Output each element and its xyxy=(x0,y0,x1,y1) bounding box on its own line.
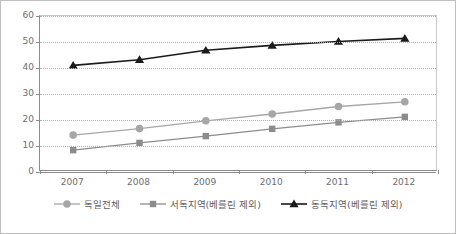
y-axis-tick xyxy=(36,16,40,17)
x-axis-tick xyxy=(239,170,240,174)
x-axis-tick xyxy=(173,170,174,174)
gridline xyxy=(40,94,436,95)
x-axis-label: 2011 xyxy=(326,177,349,187)
circle-marker-icon xyxy=(54,198,80,210)
gridline xyxy=(40,120,436,121)
legend-item[interactable]: 동독지역(베를린 제외) xyxy=(281,197,402,211)
y-axis-label: 20 xyxy=(23,114,34,124)
legend-label: 동독지역(베를린 제외) xyxy=(311,197,402,211)
x-axis-label: 2008 xyxy=(127,177,150,187)
y-axis-label: 30 xyxy=(23,88,34,98)
y-axis-tick xyxy=(36,120,40,121)
x-axis-tick xyxy=(106,170,107,174)
x-axis-tick xyxy=(40,170,41,174)
y-axis-tick xyxy=(36,42,40,43)
data-point xyxy=(203,133,209,139)
y-axis-label: 40 xyxy=(23,62,34,72)
plot-area xyxy=(39,15,437,171)
x-axis-label: 2010 xyxy=(260,177,283,187)
y-axis-label: 10 xyxy=(23,140,34,150)
data-point xyxy=(70,147,76,153)
gridline xyxy=(40,16,436,17)
legend-item[interactable]: 서독지역(베를린 제외) xyxy=(140,197,261,211)
x-axis-label: 2012 xyxy=(392,177,415,187)
y-axis-label: 50 xyxy=(23,36,34,46)
y-axis-tick xyxy=(36,94,40,95)
gridline xyxy=(40,146,436,147)
data-point xyxy=(335,103,343,111)
gridline xyxy=(40,68,436,69)
y-axis-tick xyxy=(36,146,40,147)
legend-item[interactable]: 독일전체 xyxy=(54,197,120,211)
x-axis-tick xyxy=(305,170,306,174)
x-axis-tick xyxy=(438,170,439,174)
data-point xyxy=(136,125,144,133)
series-line xyxy=(73,102,405,135)
triangle-marker-icon xyxy=(281,198,307,210)
gridline xyxy=(40,172,436,173)
series-3 xyxy=(69,34,410,69)
data-point xyxy=(268,110,276,118)
x-axis-label: 2009 xyxy=(193,177,216,187)
data-point xyxy=(401,98,409,106)
chart-legend: 독일전체서독지역(베를린 제외)동독지역(베를린 제외) xyxy=(1,197,455,211)
gridline xyxy=(40,42,436,43)
y-axis-label: 60 xyxy=(23,10,34,20)
chart-figure: 6050403020100 200720082009201020112012 독… xyxy=(0,0,456,234)
x-axis-tick xyxy=(372,170,373,174)
legend-label: 독일전체 xyxy=(84,197,120,211)
legend-label: 서독지역(베를린 제외) xyxy=(170,197,261,211)
square-marker-icon xyxy=(140,198,166,210)
y-axis-label: 0 xyxy=(28,166,34,176)
y-axis-tick xyxy=(36,68,40,69)
x-axis-label: 2007 xyxy=(61,177,84,187)
data-point xyxy=(69,131,77,139)
data-point xyxy=(269,126,275,132)
